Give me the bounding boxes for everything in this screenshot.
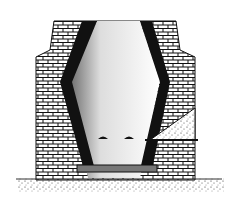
furnace-illustration — [0, 0, 246, 199]
grate — [77, 165, 157, 172]
